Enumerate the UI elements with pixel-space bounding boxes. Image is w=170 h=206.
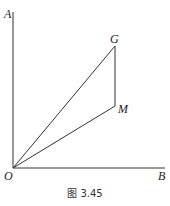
- figure-caption: 图 3.45: [67, 188, 102, 199]
- segment-OG: [13, 46, 115, 168]
- label-M: M: [117, 102, 129, 116]
- label-O: O: [4, 169, 13, 183]
- geometry-diagram: A G M O B 图 3.45: [0, 0, 170, 206]
- label-G: G: [110, 32, 119, 46]
- label-B: B: [158, 169, 166, 183]
- label-A: A: [3, 7, 12, 21]
- segment-OM: [13, 106, 115, 168]
